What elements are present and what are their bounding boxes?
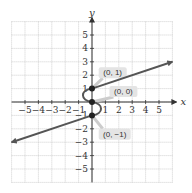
x-tick-label: 3	[129, 105, 135, 115]
y-tick-label: −3	[75, 137, 89, 147]
x-tick-label: 4	[143, 105, 149, 115]
y-tick-label: 3	[82, 57, 88, 67]
point-label: (0, 0)	[114, 87, 133, 96]
y-tick-label: 4	[82, 43, 88, 53]
x-tick-label: −2	[59, 105, 72, 115]
data-point	[89, 86, 95, 92]
x-axis-label: x	[180, 96, 186, 107]
x-tick-label: −5	[18, 105, 32, 115]
y-tick-label: −4	[75, 151, 89, 161]
y-tick-label: 5	[82, 30, 88, 40]
point-label: (0, 1)	[103, 68, 122, 77]
y-axis-label: y	[88, 7, 95, 18]
point-label: (0, −1)	[103, 130, 127, 139]
y-tick-label: 2	[82, 70, 88, 80]
x-tick-label: −4	[32, 105, 46, 115]
callout-leader	[92, 97, 113, 102]
data-point	[89, 99, 95, 105]
x-tick-label: 1	[103, 105, 109, 115]
coordinate-plane-chart: xy−5−4−3−2−112345−5−4−3−2−112345(0, 1)(0…	[0, 0, 192, 193]
data-point	[89, 112, 95, 118]
x-tick-label: −3	[45, 105, 59, 115]
y-tick-label: −5	[75, 164, 89, 174]
y-tick-label: −2	[75, 124, 88, 134]
x-tick-label: 2	[116, 105, 122, 115]
x-tick-label: 5	[156, 105, 162, 115]
